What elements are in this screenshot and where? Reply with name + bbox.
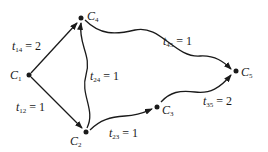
edge-label-t23: t23 = 1: [109, 127, 138, 141]
node-label-c1: C1: [10, 69, 22, 83]
node-c1: [27, 73, 32, 78]
edge-c4-c5: [85, 20, 231, 69]
node-c5: [234, 69, 239, 74]
node-label-c4: C4: [87, 10, 99, 24]
node-c2: [84, 130, 89, 135]
edge-c2-c4: [81, 23, 90, 128]
node-c4: [79, 16, 84, 21]
node-c3: [155, 105, 160, 110]
edge-label-t14: t14 = 2: [12, 40, 41, 54]
node-label-c3: C3: [162, 104, 174, 118]
edge-label-t35: t35 = 2: [203, 95, 232, 109]
node-label-c5: C5: [241, 66, 253, 80]
edge-label-t45: t45 = 1: [163, 35, 192, 49]
node-label-c2: C2: [70, 135, 82, 149]
edge-label-t12: t12 = 1: [16, 101, 45, 115]
edge-label-t24: t24 = 1: [90, 70, 119, 84]
